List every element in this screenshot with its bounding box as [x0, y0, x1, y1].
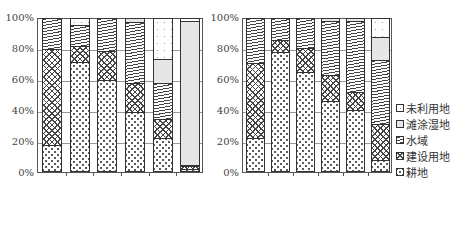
- y-tick-label: 100%: [205, 12, 239, 23]
- y-tick-label: 20%: [205, 136, 239, 147]
- y-tick-label: 80%: [0, 43, 34, 54]
- bar-segment: [181, 169, 199, 171]
- x-tick: [293, 173, 294, 176]
- bar-segment: [98, 51, 116, 80]
- bar-segment: [71, 46, 89, 61]
- bar-segment: [322, 101, 339, 171]
- x-tick: [318, 173, 319, 176]
- gridline: [38, 50, 202, 51]
- legend-label: 建设用地: [406, 148, 450, 164]
- stacked-bar: [42, 18, 62, 172]
- bar-segment: [154, 83, 172, 119]
- legend-item-farmland: 耕地: [396, 164, 450, 180]
- bar-segment: [247, 19, 264, 63]
- bar-segment: [154, 138, 172, 171]
- stacked-bar: [246, 18, 265, 172]
- stacked-bar: [296, 18, 315, 172]
- bar-segment: [43, 49, 61, 145]
- legend-label: 耕地: [406, 164, 428, 180]
- stacked-bar: [371, 18, 390, 172]
- y-tick-label: 60%: [205, 74, 239, 85]
- x-tick: [268, 173, 269, 176]
- stacked-bar: [321, 18, 340, 172]
- legend-label: 水域: [406, 132, 428, 148]
- bar-segment: [126, 83, 144, 112]
- bar-segment: [154, 119, 172, 137]
- legend-swatch-unused: [396, 104, 404, 112]
- stacked-bar: [153, 18, 173, 172]
- bar-segment: [322, 75, 339, 101]
- legend-item-wetland: 滩涂湿地: [396, 116, 450, 132]
- x-tick: [121, 173, 122, 176]
- bar-segment: [43, 145, 61, 171]
- stacked-bar: [125, 18, 145, 172]
- legend-swatch-construction: [396, 152, 404, 160]
- bar-segment: [272, 40, 289, 52]
- x-tick: [368, 173, 369, 176]
- y-tick-label: 0%: [205, 167, 239, 178]
- legend-swatch-wetland: [396, 120, 404, 128]
- legend-label: 滩涂湿地: [406, 116, 450, 132]
- x-tick: [343, 173, 344, 176]
- y-tick-label: 0%: [0, 167, 34, 178]
- bar-segment: [247, 63, 264, 137]
- gridline: [243, 143, 391, 144]
- bar-segment: [272, 52, 289, 171]
- stacked-bar: [180, 18, 200, 172]
- bar-segment: [98, 80, 116, 171]
- bar-segment: [372, 60, 389, 124]
- bar-segment: [71, 62, 89, 171]
- bar-segment: [347, 92, 364, 110]
- y-tick-label: 80%: [205, 43, 239, 54]
- y-tick-label: 20%: [0, 136, 34, 147]
- bar-segment: [347, 110, 364, 171]
- bar-segment: [43, 19, 61, 49]
- legend-item-unused: 未利用地: [396, 100, 450, 116]
- legend-swatch-farmland: [396, 168, 404, 176]
- bar-segment: [297, 48, 314, 72]
- bar-segment: [297, 72, 314, 171]
- bar-segment: [154, 59, 172, 83]
- bar-segment: [372, 124, 389, 160]
- bar-segment: [347, 21, 364, 92]
- stacked-bar: [346, 18, 365, 172]
- bar-segment: [71, 25, 89, 46]
- legend-label: 未利用地: [406, 100, 450, 116]
- bar-segment: [322, 21, 339, 76]
- stacked-bar: [70, 18, 90, 172]
- x-tick: [93, 173, 94, 176]
- stacked-bar: [97, 18, 117, 172]
- bar-segment: [154, 19, 172, 59]
- plot-area: [37, 18, 203, 173]
- gridline: [243, 112, 391, 113]
- gridline: [243, 50, 391, 51]
- plot-area: [242, 18, 392, 173]
- legend-item-water: 水域: [396, 132, 450, 148]
- legend: 未利用地 滩涂湿地 水域 建设用地 耕地: [396, 100, 450, 180]
- bar-segment: [247, 138, 264, 171]
- stacked-bar: [271, 18, 290, 172]
- y-tick-label: 40%: [0, 105, 34, 116]
- bar-segment: [126, 22, 144, 83]
- y-tick-label: 100%: [0, 12, 34, 23]
- gridline: [38, 143, 202, 144]
- bar-segment: [98, 19, 116, 51]
- y-tick-label: 60%: [0, 74, 34, 85]
- bar-segment: [181, 21, 199, 165]
- bar-segment: [372, 160, 389, 171]
- bar-segment: [372, 37, 389, 60]
- bar-segment: [372, 19, 389, 37]
- bar-segment: [272, 19, 289, 40]
- bar-segment: [297, 19, 314, 48]
- x-tick: [149, 173, 150, 176]
- gridline: [38, 112, 202, 113]
- gridline: [38, 81, 202, 82]
- y-tick-label: 40%: [205, 105, 239, 116]
- legend-swatch-water: [396, 136, 404, 144]
- x-tick: [66, 173, 67, 176]
- gridline: [243, 81, 391, 82]
- legend-item-construction: 建设用地: [396, 148, 450, 164]
- x-tick: [176, 173, 177, 176]
- bar-segment: [126, 112, 144, 171]
